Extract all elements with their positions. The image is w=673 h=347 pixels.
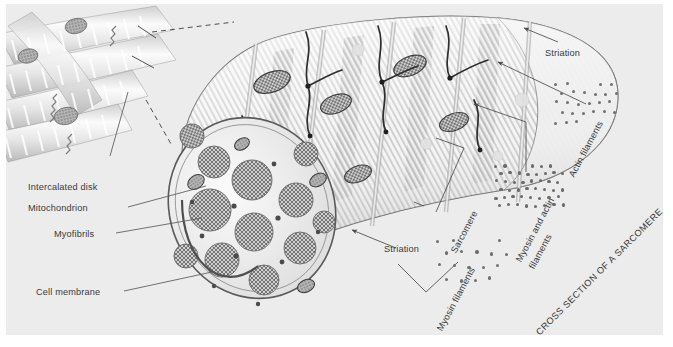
illustration-panel: Intercalated disk Mitochondrion Myofibri… xyxy=(6,4,663,335)
filament-dot xyxy=(547,180,550,183)
label-cell-membrane: Cell membrane xyxy=(36,287,100,297)
filament-dot xyxy=(488,276,491,279)
filament-dot xyxy=(540,165,543,168)
filament-dot xyxy=(498,204,501,207)
filament-dot xyxy=(554,83,557,86)
label-intercalated-disk: Intercalated disk xyxy=(28,182,97,192)
label-mitochondrion: Mitochondrion xyxy=(28,203,88,213)
filament-dot xyxy=(511,195,514,198)
filament-dot xyxy=(552,171,555,174)
filament-dot xyxy=(490,252,493,255)
filament-dot xyxy=(531,164,534,167)
filament-dot xyxy=(577,103,580,106)
filament-dot xyxy=(526,173,529,176)
filament-dot xyxy=(610,83,613,86)
filament-dot xyxy=(565,121,568,124)
cardiac-muscle-fiber-bundle xyxy=(6,6,176,162)
filament-dot xyxy=(555,100,558,103)
filament-dot xyxy=(507,203,510,206)
filament-dot xyxy=(503,196,506,199)
filament-dot xyxy=(561,188,564,191)
label-striation-top: Striation xyxy=(545,48,580,58)
filament-dot xyxy=(513,181,516,184)
filament-dot xyxy=(499,188,502,191)
filament-dot xyxy=(516,203,519,206)
filament-dot xyxy=(566,82,569,85)
filament-dot xyxy=(566,101,569,104)
filament-dot xyxy=(539,179,542,182)
filament-dot xyxy=(562,203,565,206)
filament-dot xyxy=(544,172,547,175)
filament-dot xyxy=(603,110,606,113)
filament-dot xyxy=(503,164,506,167)
filament-dot xyxy=(615,92,618,95)
filament-dot xyxy=(525,204,528,207)
filament-dot xyxy=(549,164,552,167)
filament-dot xyxy=(583,91,586,94)
filament-dot xyxy=(508,171,511,174)
filament-dot xyxy=(552,189,555,192)
filament-dot xyxy=(505,253,508,256)
filament-dot xyxy=(572,90,575,93)
figure-root: Intercalated disk Mitochondrion Myofibri… xyxy=(0,0,673,347)
filament-dot xyxy=(460,250,463,253)
filament-dot xyxy=(554,122,557,125)
label-myofibrils: Myofibrils xyxy=(54,229,94,239)
filament-dot xyxy=(561,172,564,175)
filament-dot xyxy=(496,264,499,267)
filament-dot xyxy=(508,189,511,192)
filament-dot xyxy=(535,173,538,176)
label-striation-bottom: Striation xyxy=(384,244,419,254)
filament-dot xyxy=(560,92,563,95)
filament-dot xyxy=(534,205,537,208)
filament-dot xyxy=(474,279,477,282)
filament-dot xyxy=(525,187,528,190)
filament-dot xyxy=(495,179,498,182)
filament-dot xyxy=(529,196,532,199)
filament-dot xyxy=(534,187,537,190)
filament-dot xyxy=(543,188,546,191)
filament-dot xyxy=(557,195,560,198)
filament-dot xyxy=(438,263,441,266)
filament-dot xyxy=(453,264,456,267)
filament-dot xyxy=(575,120,578,123)
filament-dot xyxy=(482,266,485,269)
filament-dot xyxy=(498,239,501,242)
filament-dot xyxy=(561,111,564,114)
filament-dot xyxy=(520,195,523,198)
filament-dot xyxy=(613,111,616,114)
filament-dot xyxy=(608,100,611,103)
filament-dot xyxy=(594,93,597,96)
filament-dot xyxy=(599,83,602,86)
filament-dot xyxy=(445,278,448,281)
filament-dot xyxy=(538,197,541,200)
filament-dot xyxy=(588,102,591,105)
filament-dot xyxy=(445,251,448,254)
filament-dot xyxy=(592,110,595,113)
filament-dot xyxy=(582,112,585,115)
filament-dot xyxy=(571,112,574,115)
filament-dot xyxy=(556,181,559,184)
filament-dot xyxy=(494,165,497,168)
filament-dot xyxy=(499,172,502,175)
filament-dot xyxy=(517,188,520,191)
filament-dot xyxy=(494,197,497,200)
filament-dot xyxy=(530,179,533,182)
filament-dot xyxy=(475,250,478,253)
filament-dot xyxy=(436,240,439,243)
filament-dot xyxy=(598,101,601,104)
filament-dot xyxy=(518,171,521,174)
filament-dot xyxy=(604,93,607,96)
filament-dot xyxy=(504,180,507,183)
filament-dot xyxy=(521,181,524,184)
